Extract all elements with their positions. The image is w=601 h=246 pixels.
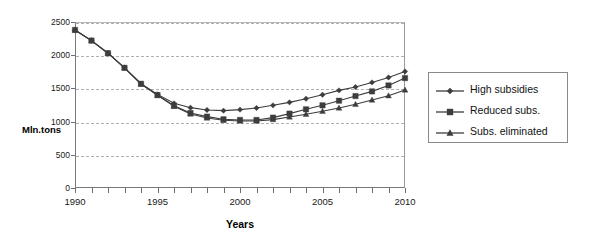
square-marker-icon [435,104,465,116]
y-tick-label-0: 0 [65,184,70,192]
x-tick-mark-2001 [257,188,258,193]
x-tick-mark-1993 [125,188,126,193]
x-tick-mark-2005 [323,188,324,193]
x-tick-mark-1990 [75,188,76,193]
y-tick-label-2000: 2000 [51,51,70,59]
x-tick-mark-2010 [405,188,406,193]
data-point [254,105,259,110]
data-point [188,105,193,110]
legend-item-square[interactable]: Reduced subs. [429,99,567,120]
x-tick-mark-2009 [389,188,390,193]
x-tick-mark-2007 [356,188,357,193]
x-tick-mark-1995 [158,188,159,193]
data-point [270,103,275,108]
y-tick-label-2500: 2500 [51,18,70,26]
x-tick-mark-2002 [273,188,274,193]
data-point [221,108,226,113]
x-tick-label-1990: 1990 [64,196,85,207]
y-axis-tick-labels: 05001000150020002500 [26,22,70,188]
x-tick-mark-1997 [191,188,192,193]
data-point [386,75,391,80]
x-tick-mark-2008 [372,188,373,193]
data-point [287,100,292,105]
chart-figure: 05001000150020002500 Mln.tons 1990199520… [0,0,601,246]
x-tick-mark-2003 [290,188,291,193]
y-tick-label-500: 500 [56,151,70,159]
x-tick-mark-2006 [339,188,340,193]
x-tick-mark-1999 [224,188,225,193]
chart-legend: High subsidiesReduced subs.Subs. elimina… [428,72,568,143]
diamond-marker-icon [435,83,465,95]
data-point [369,80,374,85]
x-tick-mark-2000 [240,188,241,193]
y-axis-title: Mln.tons [22,124,61,135]
data-point [353,84,358,89]
series-layer [75,22,405,188]
data-point [336,88,341,93]
data-point [336,98,341,103]
x-tick-label-2005: 2005 [312,196,333,207]
x-tick-label-2000: 2000 [229,196,250,207]
legend-item-diamond[interactable]: High subsidies [429,78,567,99]
data-point [369,89,374,94]
x-tick-mark-1994 [141,188,142,193]
data-point [320,92,325,97]
x-tick-mark-1991 [92,188,93,193]
x-axis-tick-marks [75,188,405,194]
x-axis-title: Years [0,218,480,230]
data-point [303,96,308,101]
data-point [237,107,242,112]
x-axis-tick-labels: 19901995200020052010 [75,196,405,210]
y-tick-label-1500: 1500 [51,84,70,92]
data-point [320,103,325,108]
data-point [353,93,358,98]
triangle-marker-icon [435,125,465,137]
legend-label: Reduced subs. [470,104,540,116]
x-tick-label-2010: 2010 [394,196,415,207]
data-point [386,83,391,88]
data-point [402,69,407,74]
x-tick-mark-1996 [174,188,175,193]
x-tick-mark-2004 [306,188,307,193]
data-point [402,75,407,80]
data-point [204,107,209,112]
x-tick-mark-1998 [207,188,208,193]
x-tick-label-1995: 1995 [147,196,168,207]
x-tick-mark-1992 [108,188,109,193]
data-point [402,87,408,92]
legend-item-triangle[interactable]: Subs. eliminated [429,120,567,141]
legend-label: Subs. eliminated [470,125,548,137]
legend-label: High subsidies [470,83,538,95]
